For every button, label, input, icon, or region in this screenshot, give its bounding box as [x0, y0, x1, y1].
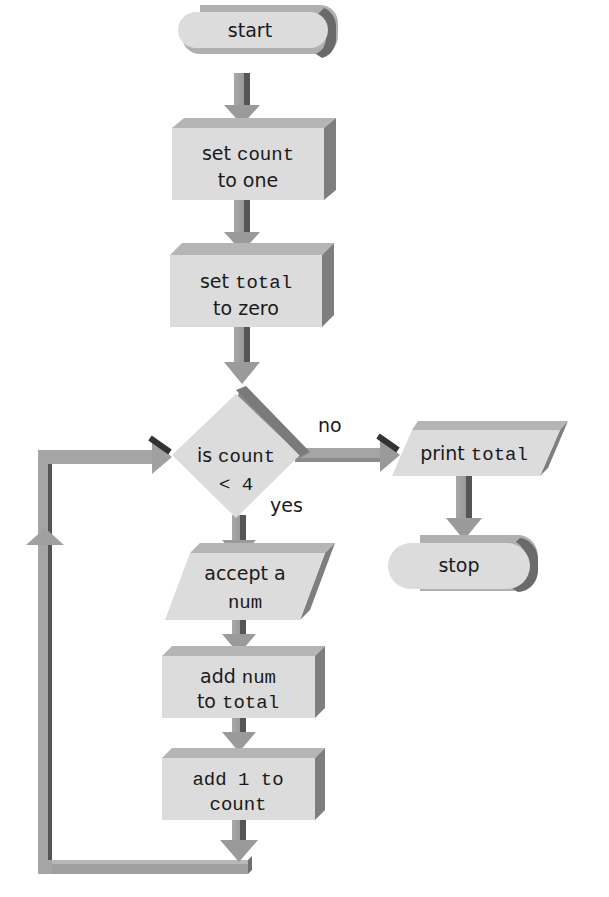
flowchart-canvas: start set count to one set total to zero… [0, 0, 609, 897]
decision-line2: < 4 [219, 474, 253, 496]
set-count-line1: set count [202, 142, 294, 166]
set-count-line2: to one [218, 169, 278, 191]
accept-io: accept a num [165, 543, 335, 620]
add-num-box: add num to total [162, 646, 325, 718]
accept-line2: num [228, 592, 262, 614]
arrow-add-one-to-loop [220, 820, 258, 862]
add-one-line1: add 1 to [192, 769, 283, 791]
stop-terminal: stop [388, 535, 538, 592]
add-num-line2: to total [197, 690, 279, 714]
print-total-io: print total [392, 421, 568, 476]
edge-label-yes: yes [270, 494, 303, 516]
arrow-print-total-to-stop [446, 476, 482, 540]
set-total-box: set total to zero [170, 243, 334, 327]
print-total-label: print total [420, 442, 528, 466]
up-arrowhead-icon [26, 528, 64, 545]
add-one-box: add 1 to count [162, 748, 325, 820]
add-num-line1: add num [200, 665, 276, 689]
arrow-decision-to-print-total [295, 436, 400, 472]
set-total-line2: to zero [213, 297, 279, 319]
stop-label: stop [438, 554, 479, 576]
set-count-box: set count to one [172, 118, 336, 200]
decision-line1: is count [197, 444, 275, 468]
start-label: start [228, 19, 272, 41]
arrow-set-total-to-decision [224, 326, 260, 384]
add-one-line2: count [209, 794, 266, 816]
start-terminal: start [178, 5, 338, 58]
accept-line1: accept a [204, 562, 285, 584]
edge-label-no: no [318, 414, 342, 436]
arrow-start-to-set-count [224, 73, 260, 125]
set-total-line1: set total [200, 270, 292, 294]
arrow-add-num-to-add-one [222, 718, 256, 752]
